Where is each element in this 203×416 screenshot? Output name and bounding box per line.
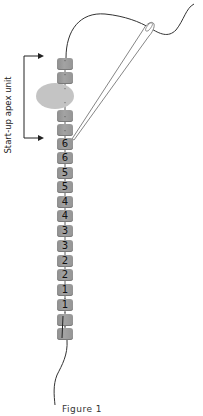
bead-number: 6 — [57, 137, 73, 151]
numbered-bead: 6 — [57, 138, 73, 150]
bead — [57, 110, 73, 122]
bead-number: 6 — [57, 151, 73, 165]
numbered-bead: 2 — [57, 255, 73, 267]
bead — [57, 72, 73, 84]
bead — [57, 58, 73, 70]
base-bead — [57, 314, 73, 326]
bead-number: 4 — [57, 209, 73, 223]
needle-icon — [72, 22, 154, 140]
diagram-lines — [0, 0, 203, 416]
numbered-bead: 3 — [57, 225, 73, 237]
numbered-bead: 4 — [57, 210, 73, 222]
bead-number: 2 — [57, 254, 73, 268]
numbered-bead: 5 — [57, 167, 73, 179]
numbered-bead: 5 — [57, 181, 73, 193]
bead-number: 2 — [57, 268, 73, 282]
numbered-bead: 6 — [57, 152, 73, 164]
numbered-bead: 1 — [57, 299, 73, 311]
bead-number: 1 — [57, 283, 73, 297]
bead-number: 5 — [57, 180, 73, 194]
bead-number: 3 — [57, 224, 73, 238]
bracket-label: Start-up apex unit — [1, 88, 15, 142]
bead — [57, 124, 73, 136]
bead-number: 1 — [57, 298, 73, 312]
numbered-bead: 4 — [57, 196, 73, 208]
numbered-bead: 1 — [57, 284, 73, 296]
figure-caption: Figure 1 — [62, 404, 102, 414]
bracket-label-text: Start-up apex unit — [3, 76, 13, 153]
bead-number: 5 — [57, 166, 73, 180]
bead-number: 3 — [57, 239, 73, 253]
bead-number: 4 — [57, 195, 73, 209]
beading-diagram: Start-up apex unit 6 6 5 5 4 4 3 3 2 2 1… — [0, 0, 203, 416]
thread-tail — [54, 340, 67, 405]
numbered-bead: 2 — [57, 269, 73, 281]
numbered-bead: 3 — [57, 240, 73, 252]
oval-accent-bead — [36, 83, 74, 109]
base-bead — [57, 328, 73, 340]
